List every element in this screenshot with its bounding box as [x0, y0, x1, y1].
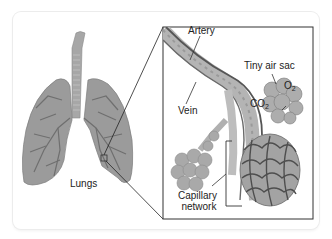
label-capillary-network: Capillary network [178, 190, 217, 212]
trachea [72, 32, 85, 119]
co2-text: CO [250, 98, 265, 109]
left-lung [22, 79, 72, 185]
co2-subscript: 2 [265, 103, 269, 110]
zoom-line-bottom [106, 161, 163, 219]
capillary-label-line1: Capillary [178, 190, 217, 201]
lungs-diagram [0, 0, 332, 239]
label-lungs: Lungs [70, 178, 97, 189]
o2-subscript: 2 [292, 85, 296, 92]
label-o2: O2 [284, 80, 296, 94]
right-lung [84, 79, 133, 183]
capillary-network [240, 134, 300, 206]
capillary-label-line2: network [178, 201, 217, 212]
label-tiny-air-sac: Tiny air sac [244, 60, 295, 71]
label-co2: CO2 [250, 98, 269, 112]
label-artery: Artery [188, 25, 215, 36]
label-vein: Vein [178, 105, 197, 116]
o2-text: O [284, 80, 292, 91]
